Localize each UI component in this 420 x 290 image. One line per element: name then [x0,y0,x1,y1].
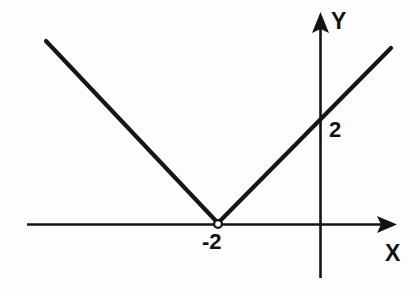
figure-canvas: Y X 2 -2 [0,0,420,290]
y-intercept-tick-label: 2 [329,119,341,141]
vertex-open-circle-marker [214,220,222,228]
graph-left-branch [46,41,216,221]
graph-right-branch [220,48,391,221]
x-axis-label: X [385,242,400,265]
vertex-tick-label: -2 [202,231,222,253]
y-axis-label: Y [331,10,346,33]
